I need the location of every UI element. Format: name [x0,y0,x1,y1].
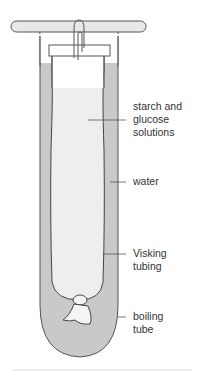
tubing-knot [73,295,87,305]
label-water: water [133,175,159,188]
apparatus-diagram [0,0,198,372]
label-starch-glucose: starch and glucose solutions [133,100,182,139]
label-visking-tubing: Visking tubing [133,247,167,273]
tubing-collar [49,45,110,56]
glass-rod [11,21,146,32]
visking-tubing [51,54,105,300]
label-boiling-tube: boiling tube [133,310,163,336]
